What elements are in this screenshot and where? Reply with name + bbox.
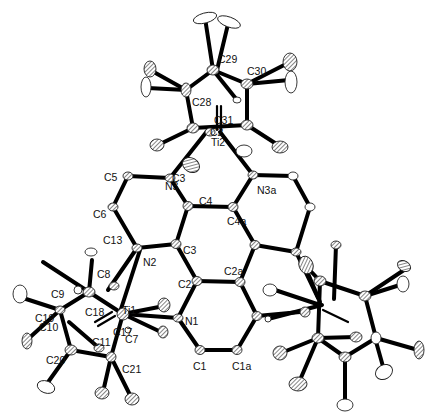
- label-c18: C18: [85, 306, 104, 318]
- label-c8: C8: [97, 268, 111, 280]
- label-c4: C4: [199, 195, 213, 207]
- label-c31: C31: [214, 114, 233, 126]
- label-n3a: N3a: [257, 184, 276, 196]
- label-n1: N1: [185, 315, 199, 327]
- label-c13: C13: [103, 234, 122, 246]
- label-c21: C21: [122, 363, 141, 375]
- label-c1: C1: [193, 360, 207, 372]
- label-c30: C30: [247, 65, 266, 77]
- label-c4a: C4a: [227, 215, 246, 227]
- label-c20: C20: [46, 354, 65, 366]
- label-n3: N3: [165, 180, 179, 192]
- label-c29: C29: [218, 53, 237, 65]
- label-c2: C2: [178, 278, 192, 290]
- label-c7: C7: [125, 333, 139, 345]
- label-c3: C3: [183, 244, 197, 256]
- label-c5: C5: [104, 171, 118, 183]
- label-c11: C11: [92, 336, 111, 348]
- label-c6: C6: [93, 208, 107, 220]
- right-cp-ring: [268, 245, 418, 403]
- label-ti2: Ti2: [211, 136, 225, 148]
- label-ti1: Ti1: [122, 304, 136, 316]
- label-c1a: C1a: [232, 360, 251, 372]
- label-c2a: C2a: [224, 265, 243, 277]
- label-c9: C9: [51, 288, 65, 300]
- label-n2: N2: [143, 256, 157, 268]
- ortep-diagram: C29 C30 C28 C31 C2 Ti2 C5 C3 N3 N3a C4 C…: [0, 0, 432, 419]
- label-c10: C10: [39, 321, 58, 333]
- label-c28: C28: [192, 96, 211, 108]
